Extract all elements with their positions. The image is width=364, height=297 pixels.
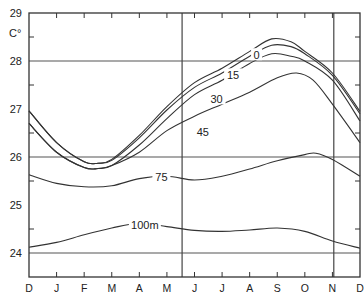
- x-tick-label: J: [192, 282, 197, 294]
- y-tick-label: 29: [10, 7, 22, 19]
- x-tick-label: F: [81, 282, 87, 294]
- x-tick-label: A: [246, 282, 253, 294]
- curve-label-100m: 100m: [131, 219, 159, 231]
- y-tick-label: 27: [10, 103, 22, 115]
- axes: 242526272829DJFMAMJJASOND: [10, 7, 364, 294]
- y-tick-label: 28: [10, 55, 22, 67]
- x-tick-label: S: [274, 282, 281, 294]
- x-tick-label: M: [163, 282, 172, 294]
- series-line-100m: [29, 223, 360, 248]
- x-tick-label: D: [356, 282, 364, 294]
- x-tick-label: A: [136, 282, 143, 294]
- x-tick-label: J: [54, 282, 59, 294]
- curve-label-15: 15: [227, 69, 239, 81]
- series-line-30: [29, 53, 360, 169]
- x-tick-label: M: [107, 282, 116, 294]
- x-tick-label: J: [219, 282, 224, 294]
- x-tick-label: N: [329, 282, 337, 294]
- curve-label-0: 0: [254, 49, 260, 61]
- y-tick-label: 26: [10, 151, 22, 163]
- curve-label-30: 30: [210, 93, 222, 105]
- x-tick-label: O: [301, 282, 309, 294]
- x-tick-label: D: [25, 282, 33, 294]
- data-curves: [29, 38, 360, 248]
- grid-lines: [29, 13, 360, 277]
- plot-frame: [29, 13, 360, 277]
- curve-labels: 015304575100m: [129, 48, 262, 231]
- series-line-75: [29, 153, 360, 187]
- y-tick-label: 25: [10, 199, 22, 211]
- y-tick-label: 24: [10, 247, 22, 259]
- chart: 015304575100m 242526272829DJFMAMJJASOND …: [0, 0, 364, 297]
- series-line-15: [29, 45, 360, 164]
- curve-label-45: 45: [197, 126, 209, 138]
- y-axis-unit-label: C°: [9, 27, 21, 39]
- curve-label-75: 75: [155, 171, 167, 183]
